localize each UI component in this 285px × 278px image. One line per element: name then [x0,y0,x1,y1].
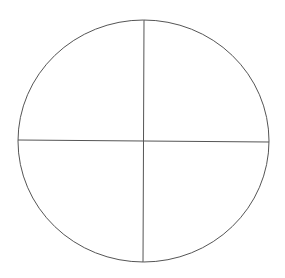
quadrant-circle-diagram [0,0,285,278]
